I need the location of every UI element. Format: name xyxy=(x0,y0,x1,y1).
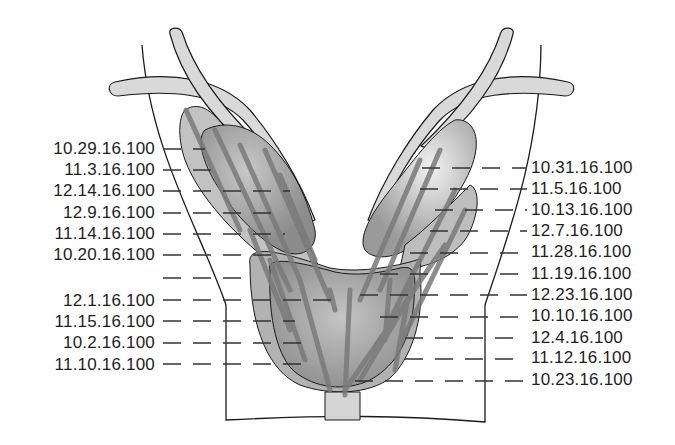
biopsy-label-right-9: 12.4.16.100 xyxy=(531,328,623,348)
biopsy-label-right-6: 11.19.16.100 xyxy=(531,264,631,284)
vas-deferens xyxy=(109,28,573,224)
biopsy-label-right-11: 10.23.16.100 xyxy=(531,370,633,390)
biopsy-label-left-9: 11.15.16.100 xyxy=(5,312,155,332)
biopsy-label-left-5: 11.14.16.100 xyxy=(5,224,155,244)
biopsy-label-right-1: 10.31.16.100 xyxy=(531,158,633,178)
seminal-vesicles xyxy=(180,106,477,270)
biopsy-label-left-4: 12.9.16.100 xyxy=(5,203,155,223)
biopsy-label-left-1: 10.29.16.100 xyxy=(5,139,155,159)
biopsy-label-right-3: 10.13.16.100 xyxy=(531,200,633,220)
biopsy-label-right-7: 12.23.16.100 xyxy=(531,285,633,305)
biopsy-label-left-11: 11.10.16.100 xyxy=(5,355,155,375)
biopsy-label-left-8: 12.1.16.100 xyxy=(5,291,155,311)
biopsy-label-left-3: 12.14.16.100 xyxy=(5,181,155,201)
biopsy-label-right-10: 11.12.16.100 xyxy=(531,348,631,368)
biopsy-label-left-10: 10.2.16.100 xyxy=(5,333,155,353)
biopsy-label-right-8: 10.10.16.100 xyxy=(531,306,633,326)
biopsy-label-left-6: 10.20.16.100 xyxy=(5,245,155,265)
biopsy-label-right-2: 11.5.16.100 xyxy=(531,179,622,199)
biopsy-label-right-4: 12.7.16.100 xyxy=(531,221,623,241)
biopsy-label-right-5: 11.28.16.100 xyxy=(531,242,631,262)
biopsy-label-left-2: 11.3.16.100 xyxy=(5,160,155,180)
